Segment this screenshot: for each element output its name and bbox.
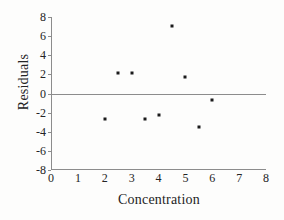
- data-point: [103, 118, 106, 121]
- plot-area: 86420-2-4-6-8 012345678: [51, 17, 266, 170]
- y-tick-mark: [48, 94, 51, 95]
- x-tick-label: 0: [48, 172, 54, 184]
- y-tick-label: 2: [40, 68, 46, 80]
- data-point: [170, 24, 173, 27]
- data-point: [144, 118, 147, 121]
- data-point: [211, 99, 214, 102]
- residual-plot: Residuals 86420-2-4-6-8 012345678 Concen…: [0, 0, 284, 220]
- y-tick-mark: [48, 132, 51, 133]
- x-tick-label: 6: [209, 172, 215, 184]
- data-point: [157, 114, 160, 117]
- data-point: [184, 76, 187, 79]
- y-tick-label: -4: [36, 126, 46, 138]
- y-axis-title: Residuals: [16, 12, 32, 152]
- zero-reference-line: [51, 94, 266, 95]
- x-tick-label: 4: [156, 172, 162, 184]
- y-tick-label: 6: [40, 30, 46, 42]
- x-tick-label: 8: [263, 172, 269, 184]
- y-tick-label: 4: [40, 49, 46, 61]
- y-tick-mark: [48, 17, 51, 18]
- data-point: [130, 72, 133, 75]
- y-tick-mark: [48, 36, 51, 37]
- y-tick-label: 8: [40, 11, 46, 23]
- x-tick-label: 2: [102, 172, 108, 184]
- y-tick-label: -8: [36, 164, 46, 176]
- y-tick-mark: [48, 113, 51, 114]
- x-tick-label: 5: [182, 172, 188, 184]
- x-tick-label: 7: [236, 172, 242, 184]
- data-point: [117, 72, 120, 75]
- x-axis-title: Concentration: [51, 192, 267, 208]
- y-tick-label: -2: [36, 107, 46, 119]
- x-tick-label: 1: [75, 172, 81, 184]
- x-axis-line: [51, 169, 266, 170]
- y-tick-mark: [48, 74, 51, 75]
- y-tick-mark: [48, 55, 51, 56]
- y-tick-mark: [48, 151, 51, 152]
- y-tick-label: -6: [36, 145, 46, 157]
- y-tick-label: 0: [40, 88, 46, 100]
- x-tick-label: 3: [129, 172, 135, 184]
- data-point: [197, 125, 200, 128]
